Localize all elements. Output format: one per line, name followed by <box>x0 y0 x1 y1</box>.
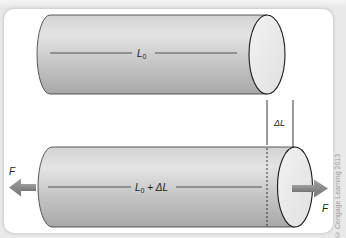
stretched-cylinder: F F L0 + ΔL <box>9 147 329 227</box>
copyright-notice: © Cengage Learning 2013 <box>334 120 346 238</box>
original-cylinder: L0 <box>37 15 285 94</box>
force-right-label: F <box>322 203 329 214</box>
force-arrow-left-icon <box>9 179 36 197</box>
delta-l-label: ΔL <box>273 118 285 128</box>
stretched-length-label: L0 + ΔL <box>135 182 168 194</box>
stretched-cylinder-diagram: L0 ΔL F F L0 + ΔL <box>0 0 346 238</box>
elongation-marker: ΔL <box>267 100 293 147</box>
force-left-label: F <box>9 166 16 177</box>
